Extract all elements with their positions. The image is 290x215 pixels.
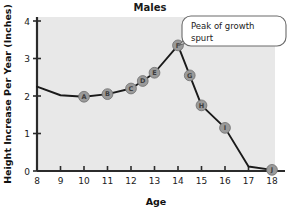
x-tick-label: 16	[219, 176, 231, 186]
x-tick-label: 14	[172, 176, 184, 186]
x-tick-label: 12	[125, 176, 136, 186]
data-point-label: G	[187, 72, 192, 80]
callout-text-line-1: Peak of growth	[191, 21, 254, 31]
y-tick-label: 2	[24, 92, 30, 102]
y-tick-label: 3	[24, 54, 30, 64]
data-point-label: C	[129, 85, 134, 93]
annotation-callout: Peak of growth spurt	[178, 16, 286, 46]
data-point-label: D	[140, 77, 146, 85]
callout-text-line-2: spurt	[191, 33, 214, 43]
data-point-label: B	[105, 90, 110, 98]
x-tick-label: 18	[266, 176, 278, 186]
data-point-label: H	[199, 102, 204, 110]
data-point-label: A	[81, 93, 86, 101]
growth-rate-chart-figure: Males Height Increase Per Year (Inches) …	[0, 0, 290, 215]
x-tick-label: 17	[243, 176, 254, 186]
data-point-label: I	[224, 124, 226, 132]
data-point-label: E	[152, 69, 156, 77]
x-tick-label: 8	[34, 176, 40, 186]
y-tick-label: 4	[24, 17, 30, 27]
y-tick-label: 0	[24, 167, 30, 177]
x-tick-label: 9	[58, 176, 64, 186]
chart-svg: Males Height Increase Per Year (Inches) …	[0, 0, 290, 215]
x-tick-label: 11	[102, 176, 113, 186]
chart-title: Males	[134, 2, 167, 13]
x-axis-title: Age	[146, 196, 167, 207]
x-tick-label: 10	[78, 176, 90, 186]
x-tick-label: 15	[196, 176, 207, 186]
x-tick-label: 13	[149, 176, 160, 186]
y-tick-label: 1	[24, 129, 30, 139]
data-point-label: J	[270, 166, 273, 174]
y-axis-title: Height Increase Per Year (Inches)	[2, 4, 13, 184]
